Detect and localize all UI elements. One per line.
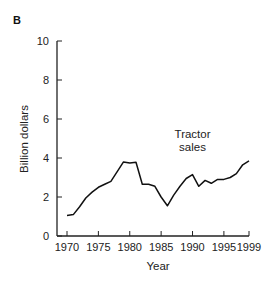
annotations: Tractorsales: [175, 128, 211, 153]
series-line-tractor-sales: [67, 161, 249, 216]
y-axis-title: Billion dollars: [18, 105, 30, 173]
y-axis: 0246810: [37, 35, 62, 242]
series-group: [67, 161, 249, 216]
x-tick-label: 1985: [149, 241, 173, 253]
annotation-tractor-sales: Tractorsales: [175, 128, 211, 153]
x-tick-label: 1999: [237, 241, 261, 253]
x-tick-label: 1980: [118, 241, 142, 253]
y-tick-label: 8: [43, 74, 49, 86]
x-tick-label: 1990: [180, 241, 204, 253]
y-tick-label: 4: [43, 152, 49, 164]
y-tick-label: 2: [43, 191, 49, 203]
y-tick-label: 6: [43, 113, 49, 125]
annotation-line: Tractor: [175, 128, 211, 140]
x-axis: 1970197519801985199019951999: [55, 231, 261, 253]
x-axis-title: Year: [146, 260, 169, 272]
x-tick-label: 1975: [86, 241, 110, 253]
y-tick-label: 0: [43, 230, 49, 242]
x-tick-label: 1995: [212, 241, 236, 253]
annotation-line: sales: [179, 141, 206, 153]
panel-label: B: [13, 14, 21, 26]
tractor-sales-chart: B 0246810 1970197519801985199019951999 B…: [0, 0, 276, 281]
y-tick-label: 10: [37, 35, 49, 47]
x-tick-label: 1970: [55, 241, 79, 253]
